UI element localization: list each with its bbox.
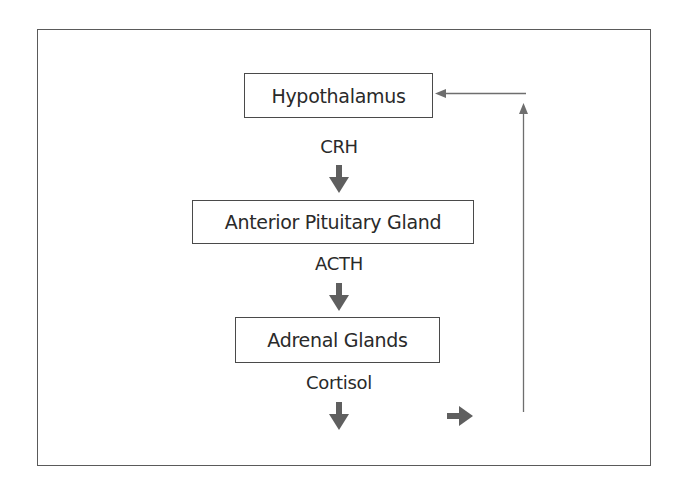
arrow-right-icon	[447, 406, 473, 426]
feedback-arrow-left-icon	[435, 89, 526, 98]
feedback-arrow-up-icon	[519, 103, 528, 412]
arrow-down-icon-cortisol	[329, 402, 349, 430]
arrow-down-icon-acth	[329, 283, 349, 311]
arrow-down-icon-crh	[329, 165, 349, 193]
arrows-layer	[0, 0, 688, 487]
